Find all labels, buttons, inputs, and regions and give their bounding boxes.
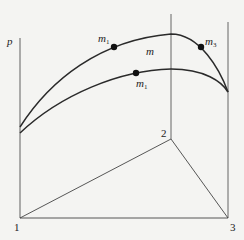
label-m1-upper-sub: 1 (106, 38, 110, 46)
edge-2-3 (171, 139, 228, 218)
point-m3-marker (198, 44, 204, 50)
point-m1-upper-marker (111, 44, 117, 50)
vertex-label-3: 3 (230, 222, 236, 233)
label-m1-lower-sub: 1 (144, 83, 148, 91)
label-m1-upper-base: m (98, 32, 106, 44)
edge-1-2 (20, 139, 171, 218)
upper-curve (20, 34, 228, 127)
vertex-label-1: 1 (14, 222, 20, 233)
lower-curve (20, 69, 228, 133)
phase-diagram: p m1 m m3 m1 1 2 3 (0, 0, 244, 240)
axis-label-p: p (7, 36, 13, 47)
point-m1-lower-marker (133, 70, 139, 76)
label-m1-lower: m1 (136, 78, 147, 91)
label-m3: m3 (205, 36, 216, 49)
label-m1-upper: m1 (98, 33, 109, 46)
vertex-label-2: 2 (161, 128, 167, 139)
label-m1-lower-base: m (136, 77, 144, 89)
label-m3-base: m (205, 35, 213, 47)
label-m3-sub: 3 (213, 41, 217, 49)
label-m-region: m (146, 46, 154, 57)
